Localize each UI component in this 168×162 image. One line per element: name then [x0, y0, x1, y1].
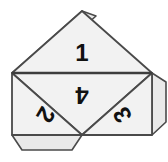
net-face-1-label-group: 1	[75, 39, 88, 66]
net-face-4-label-group: 4	[75, 82, 89, 109]
net-diagram-svg: 1 4 2 3	[0, 0, 168, 162]
net-face-1-label: 1	[75, 39, 88, 66]
glue-flap-bottom	[12, 135, 82, 150]
glue-flap-right	[152, 73, 166, 135]
net-face-4-label: 4	[75, 82, 89, 109]
tetrahedron-net-figure: 1 4 2 3	[0, 0, 168, 162]
